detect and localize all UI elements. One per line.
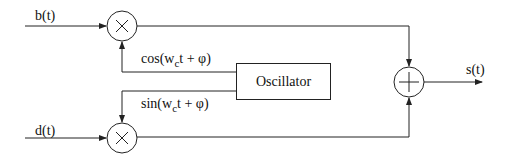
b-input-label: b(t) xyxy=(35,9,55,23)
oscillator-label: Oscillator xyxy=(256,74,311,90)
output-label: s(t) xyxy=(466,63,485,77)
oscillator-block: Oscillator xyxy=(236,63,331,100)
sin-signal-label: sin(wct + φ) xyxy=(141,97,209,111)
d-input-label: d(t) xyxy=(35,124,55,138)
cos-signal-label: cos(wct + φ) xyxy=(141,52,211,66)
